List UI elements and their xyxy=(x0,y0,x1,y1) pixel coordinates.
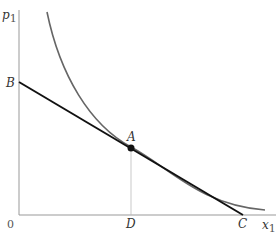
tangency-point-a xyxy=(128,145,135,152)
label-b: B xyxy=(5,76,15,90)
label-d: D xyxy=(125,217,136,231)
label-c: C xyxy=(238,217,247,231)
origin-label: 0 xyxy=(7,218,14,231)
label-a: A xyxy=(126,130,136,144)
x-axis-label: x1 xyxy=(262,218,276,232)
indifference-curve xyxy=(47,12,265,210)
diagram-canvas: p1 B A D C x1 0 xyxy=(0,0,276,232)
y-axis-label: p1 xyxy=(2,8,17,25)
